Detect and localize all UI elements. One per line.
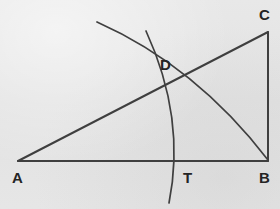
geometry-diagram: A B C D T [0, 0, 280, 209]
label-point-d: D [160, 57, 171, 72]
segment-ac [18, 32, 268, 161]
label-point-b: B [259, 170, 270, 185]
arc-centered-at-a [97, 22, 268, 160]
label-point-c: C [259, 7, 270, 22]
figure-canvas [0, 0, 280, 209]
label-point-a: A [12, 170, 23, 185]
label-point-t: T [183, 170, 192, 185]
